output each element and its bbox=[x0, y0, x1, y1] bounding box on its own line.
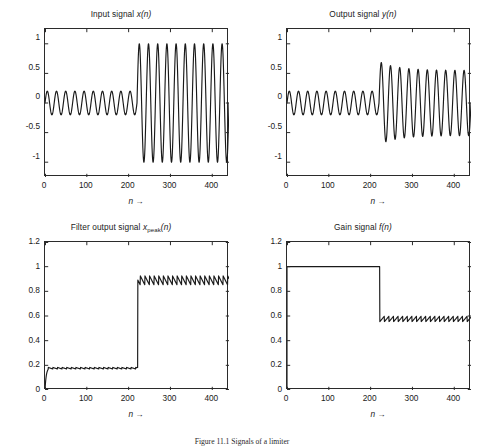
panel-filter-output-signal: Filter output signal xpeak(n) 1.2 1 0.8 … bbox=[0, 219, 242, 431]
xtick-label: 100 bbox=[321, 180, 335, 190]
ytick-label: -0.5 bbox=[14, 121, 40, 131]
panel-title-suffix: (n) bbox=[386, 9, 396, 19]
ytick-label: 0.5 bbox=[256, 62, 282, 72]
xtick-label: 200 bbox=[121, 180, 135, 190]
xtick-label: 400 bbox=[204, 393, 218, 403]
xtick-label: 100 bbox=[79, 393, 93, 403]
ytick-label: 1 bbox=[254, 261, 282, 271]
xtick-label: 300 bbox=[163, 180, 177, 190]
ytick-label: 0.4 bbox=[12, 335, 40, 345]
panel-gain-signal: Gain signal f(n) 1.2 1 0.8 0.6 0.4 0.2 0… bbox=[242, 219, 484, 431]
panel-title-input-signal: Input signal x(n) bbox=[0, 9, 242, 19]
xtick-label: 0 bbox=[42, 393, 47, 403]
plot-area-input-signal bbox=[44, 28, 228, 176]
xtick-label: 0 bbox=[42, 180, 47, 190]
plot-area-output-signal bbox=[286, 28, 470, 176]
ytick-label: -1 bbox=[14, 151, 40, 161]
xaxis-label-text: n → bbox=[128, 409, 143, 419]
panel-title-output-signal: Output signal y(n) bbox=[242, 9, 484, 19]
panel-title-text: Gain signal bbox=[334, 222, 379, 232]
xtick-label: 400 bbox=[446, 393, 460, 403]
plot-area-gain-signal bbox=[286, 241, 470, 389]
panel-title-text: Filter output signal bbox=[71, 222, 143, 232]
xtick-label: 200 bbox=[363, 180, 377, 190]
ytick-label: 1 bbox=[14, 32, 40, 42]
ytick-label: 1 bbox=[256, 32, 282, 42]
xtick-label: 0 bbox=[284, 393, 289, 403]
xtick-label: 100 bbox=[321, 393, 335, 403]
xtick-label: 200 bbox=[121, 393, 135, 403]
xtick-label: 300 bbox=[405, 180, 419, 190]
ytick-label: 0 bbox=[12, 384, 40, 394]
panel-title-subscript: peak bbox=[147, 226, 161, 233]
ytick-label: -0.5 bbox=[256, 121, 282, 131]
xaxis-label-text: n → bbox=[370, 409, 385, 419]
plot-curve-input-signal bbox=[45, 29, 229, 177]
xtick-label: 300 bbox=[163, 393, 177, 403]
xaxis-label-gain-signal: n → bbox=[370, 409, 385, 419]
ytick-label: 1.2 bbox=[254, 236, 282, 246]
ytick-label: 0.8 bbox=[12, 285, 40, 295]
panel-title-suffix: (n) bbox=[161, 222, 171, 232]
ytick-label: 0.8 bbox=[254, 285, 282, 295]
xaxis-label-input-signal: n → bbox=[128, 196, 143, 206]
xtick-label: 200 bbox=[363, 393, 377, 403]
plot-curve-gain-signal bbox=[287, 242, 471, 390]
ytick-label: 0.5 bbox=[14, 62, 40, 72]
ytick-label: 0.2 bbox=[254, 359, 282, 369]
xtick-label: 400 bbox=[204, 180, 218, 190]
ytick-label: 0.6 bbox=[12, 310, 40, 320]
plot-curve-filter-output-signal bbox=[45, 242, 229, 390]
plot-curve-output-signal bbox=[287, 29, 471, 177]
panel-title-suffix: (n) bbox=[141, 9, 151, 19]
panel-title-text: Output signal bbox=[329, 9, 382, 19]
xtick-label: 100 bbox=[79, 180, 93, 190]
ytick-label: 0 bbox=[254, 384, 282, 394]
figure-caption: Figure 11.1 Signals of a limiter bbox=[0, 437, 484, 446]
xaxis-label-text: n → bbox=[128, 196, 143, 206]
xaxis-label-text: n → bbox=[370, 196, 385, 206]
figure-caption-text: Figure 11.1 Signals of a limiter bbox=[195, 437, 290, 446]
xaxis-label-output-signal: n → bbox=[370, 196, 385, 206]
xtick-label: 0 bbox=[284, 180, 289, 190]
panel-title-gain-signal: Gain signal f(n) bbox=[242, 222, 484, 232]
ytick-label: 0 bbox=[256, 91, 282, 101]
ytick-label: -1 bbox=[256, 151, 282, 161]
xtick-label: 400 bbox=[446, 180, 460, 190]
panel-output-signal: Output signal y(n) 1 0.5 0 -0.5 -1 0 100… bbox=[242, 4, 484, 216]
ytick-label: 0.2 bbox=[12, 359, 40, 369]
xaxis-label-filter-output-signal: n → bbox=[128, 409, 143, 419]
ytick-label: 0.4 bbox=[254, 335, 282, 345]
panel-title-filter-output-signal: Filter output signal xpeak(n) bbox=[0, 222, 242, 232]
xtick-label: 300 bbox=[405, 393, 419, 403]
plot-area-filter-output-signal bbox=[44, 241, 228, 389]
ytick-label: 1 bbox=[12, 261, 40, 271]
panel-title-text: Input signal bbox=[91, 9, 137, 19]
ytick-label: 0 bbox=[14, 91, 40, 101]
panel-title-suffix: (n) bbox=[381, 222, 391, 232]
ytick-label: 0.6 bbox=[254, 310, 282, 320]
ytick-label: 1.2 bbox=[12, 236, 40, 246]
panel-input-signal: Input signal x(n) 1 0.5 0 -0.5 -1 0 100 … bbox=[0, 4, 242, 216]
